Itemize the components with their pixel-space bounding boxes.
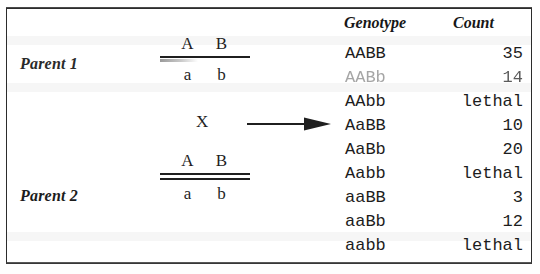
- cell-count: 35: [408, 42, 523, 66]
- allele: b: [205, 64, 239, 85]
- allele: B: [205, 33, 239, 54]
- cross-symbol: X: [196, 112, 208, 132]
- offspring-table: Genotype Count AABB35AABb14AAbblethalAaB…: [340, 0, 540, 274]
- cell-genotype: AAbb: [345, 90, 386, 114]
- table-body: AABB35AABb14AAbblethalAaBB10AaBb20Aabble…: [340, 42, 530, 258]
- parent-1-label: Parent 1: [20, 55, 78, 73]
- cell-genotype: AABB: [345, 42, 386, 66]
- table-row: AaBb20: [340, 138, 530, 162]
- cell-genotype: aaBb: [345, 210, 386, 234]
- allele: A: [171, 150, 205, 171]
- cell-count: lethal: [408, 234, 523, 258]
- cell-genotype: AaBB: [345, 114, 386, 138]
- table-row: AABb14: [340, 66, 530, 90]
- column-header-genotype: Genotype: [344, 14, 406, 32]
- allele: a: [171, 64, 205, 85]
- parent-1-allele-bar: [158, 56, 252, 63]
- parent-2-bottom-alleles: ab: [158, 183, 252, 204]
- column-header-count: Count: [453, 14, 494, 32]
- parent-2-label: Parent 2: [20, 187, 78, 205]
- allele: a: [171, 183, 205, 204]
- parental-cross-panel: Parent 1 AB ab X Parent 2 AB ab: [0, 0, 340, 274]
- cell-genotype: aaBB: [345, 186, 386, 210]
- parent-2-allele-bar: [158, 173, 252, 182]
- right-arrow-icon: [246, 116, 332, 132]
- cell-count: lethal: [408, 162, 523, 186]
- table-row: Aabblethal: [340, 162, 530, 186]
- cell-count: 20: [408, 138, 523, 162]
- cell-genotype: AABb: [345, 66, 386, 90]
- cell-count: 10: [408, 114, 523, 138]
- cell-count: lethal: [408, 90, 523, 114]
- allele: b: [205, 183, 239, 204]
- genetics-cross-figure: Parent 1 AB ab X Parent 2 AB ab: [0, 0, 540, 274]
- allele: B: [205, 150, 239, 171]
- table-row: AABB35: [340, 42, 530, 66]
- parent-1-genotype: AB ab: [158, 33, 252, 85]
- parent-1-top-alleles: AB: [158, 33, 252, 54]
- cell-genotype: AaBb: [345, 138, 386, 162]
- cell-count: 3: [408, 186, 523, 210]
- table-row: aaBb12: [340, 210, 530, 234]
- parent-2-top-alleles: AB: [158, 150, 252, 171]
- table-row: aabblethal: [340, 234, 530, 258]
- cell-genotype: Aabb: [345, 162, 386, 186]
- table-row: aaBB3: [340, 186, 530, 210]
- parent-2-genotype: AB ab: [158, 150, 252, 204]
- parent-1-bottom-alleles: ab: [158, 64, 252, 85]
- table-row: AAbblethal: [340, 90, 530, 114]
- allele: A: [171, 33, 205, 54]
- table-row: AaBB10: [340, 114, 530, 138]
- cell-count: 12: [408, 210, 523, 234]
- cell-count: 14: [408, 66, 523, 90]
- cell-genotype: aabb: [345, 234, 386, 258]
